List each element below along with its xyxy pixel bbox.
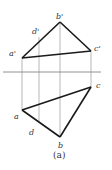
label-c-prime: c' — [94, 44, 101, 53]
label-a: a — [14, 112, 19, 121]
label-b: b — [58, 141, 63, 150]
edge-a-c — [22, 87, 91, 110]
edge-a-prime-b-prime — [22, 22, 60, 58]
label-d: d — [29, 128, 34, 137]
projection-diagram: b' d' a' c' c a d b (a) — [0, 0, 112, 170]
figure-caption: (a) — [53, 150, 65, 160]
edge-a-b — [22, 110, 60, 137]
edge-b-prime-c-prime — [60, 22, 91, 51]
label-a-prime: a' — [9, 49, 16, 58]
label-b-prime: b' — [56, 12, 63, 21]
label-d-prime: d' — [32, 27, 39, 36]
edge-b-c — [60, 87, 91, 137]
label-c: c — [96, 81, 101, 90]
edge-a-prime-c-prime — [22, 51, 91, 58]
